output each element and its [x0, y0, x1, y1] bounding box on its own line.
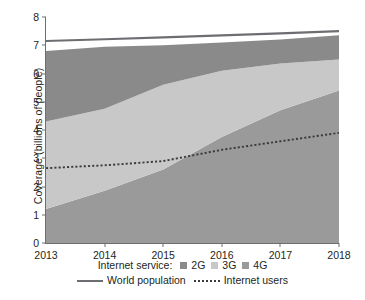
x-axis-tick-mark — [163, 243, 164, 247]
x-axis-tick-mark — [280, 243, 281, 247]
legend-label-3g: 3G — [222, 260, 236, 271]
y-axis-tick-mark — [42, 158, 46, 159]
legend-label-4g: 4G — [253, 260, 267, 271]
y-axis-tick-mark — [42, 186, 46, 187]
legend-line-solid-icon — [77, 280, 103, 282]
legend-item-internet-users[interactable]: Internet users — [194, 275, 288, 286]
legend-item-3g[interactable]: 3G — [211, 260, 236, 271]
plot-area: 012345678201320142015201620172018 — [45, 17, 339, 244]
chart-legend: Internet service: 2G 3G 4G World populat… — [0, 258, 365, 288]
y-axis-tick-mark — [42, 214, 46, 215]
legend-label-world-population: World population — [107, 275, 186, 286]
y-axis-tick-mark — [42, 17, 46, 18]
y-axis-tick-mark — [42, 101, 46, 102]
y-axis-tick-mark — [42, 73, 46, 74]
chart-figure: Coverage (billions of people) 0123456782… — [0, 0, 365, 300]
legend-item-2g[interactable]: 2G — [180, 260, 205, 271]
legend-item-world-population[interactable]: World population — [77, 275, 186, 286]
legend-label-2g: 2G — [191, 260, 205, 271]
legend-line-dotted-icon — [194, 280, 220, 282]
legend-swatch-2g — [180, 262, 187, 269]
y-axis-tick-mark — [42, 45, 46, 46]
legend-swatch-3g — [211, 262, 218, 269]
legend-item-4g[interactable]: 4G — [242, 260, 267, 271]
legend-row-services: Internet service: 2G 3G 4G — [0, 258, 365, 273]
x-axis-tick-mark — [221, 243, 222, 247]
legend-services-title: Internet service: — [98, 260, 173, 271]
x-axis-tick-mark — [339, 243, 340, 247]
x-axis-tick-mark — [104, 243, 105, 247]
legend-swatch-4g — [242, 262, 249, 269]
legend-row-lines: World population Internet users — [0, 273, 365, 288]
y-axis-tick-mark — [42, 130, 46, 131]
legend-label-internet-users: Internet users — [224, 275, 288, 286]
chart-canvas — [46, 17, 339, 243]
